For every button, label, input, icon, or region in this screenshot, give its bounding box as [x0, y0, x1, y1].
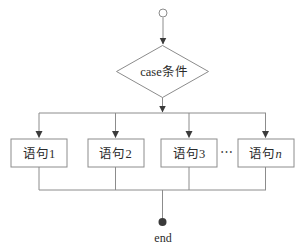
end-label: end: [154, 231, 171, 245]
branch-box-n-label: 语句n: [249, 147, 281, 161]
branch-box-2: 语句2: [88, 139, 144, 167]
branch-box-1-label: 语句1: [23, 147, 55, 161]
flowchart-canvas: case条件 语句1 语句2 语句3 ⋯ 语句n: [0, 0, 303, 252]
end-terminal-circle: [159, 218, 167, 226]
branch-box-1: 语句1: [11, 139, 67, 167]
branch-box-n: 语句n: [238, 139, 294, 167]
branch-box-3-label: 语句3: [173, 147, 205, 161]
branch-box-3: 语句3: [161, 139, 217, 167]
start-terminal-circle: [159, 9, 167, 17]
decision-label: case条件: [140, 65, 188, 79]
flowchart-svg: case条件 语句1 语句2 语句3 ⋯ 语句n: [0, 0, 303, 252]
branch-box-2-label: 语句2: [99, 147, 131, 161]
branches-ellipsis: ⋯: [220, 144, 234, 159]
